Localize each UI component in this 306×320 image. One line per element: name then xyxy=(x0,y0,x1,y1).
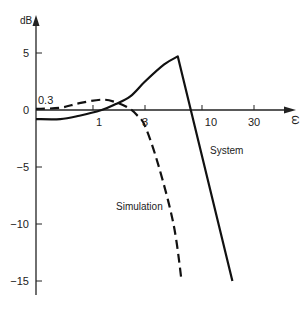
labels: 50−5−10−151310300.3dBωSystemSimulation xyxy=(10,15,303,287)
y-axis-arrow-icon xyxy=(33,15,40,26)
curves xyxy=(36,56,232,281)
x-tick-label: 3 xyxy=(142,116,148,128)
bode-chart: 50−5−10−151310300.3dBωSystemSimulation xyxy=(0,0,306,320)
x-origin-label: 0.3 xyxy=(38,94,53,106)
y-tick-label: 0 xyxy=(23,104,29,116)
axes xyxy=(33,15,297,295)
y-tick-label: −10 xyxy=(10,218,29,230)
x-tick-label: 1 xyxy=(96,116,102,128)
x-tick-label: 30 xyxy=(248,116,260,128)
x-axis-arrow-icon xyxy=(284,107,296,114)
system-label: System xyxy=(210,145,243,156)
y-tick-label: −15 xyxy=(10,275,29,287)
system-curve xyxy=(36,56,232,281)
y-axis-label: dB xyxy=(20,15,33,26)
y-tick-label: 5 xyxy=(23,47,29,59)
simulation-label: Simulation xyxy=(116,201,163,212)
x-axis-label: ω xyxy=(289,115,303,124)
y-tick-label: −5 xyxy=(16,161,29,173)
x-tick-label: 10 xyxy=(205,116,217,128)
simulation-curve xyxy=(36,100,182,281)
